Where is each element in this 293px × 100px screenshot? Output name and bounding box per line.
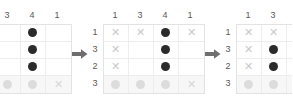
filled-dot-icon	[111, 80, 120, 89]
cross-icon: ✕	[104, 59, 128, 75]
grid-row	[0, 25, 71, 42]
filled-dot-icon	[269, 80, 278, 89]
row-clue-column: 1323	[88, 24, 103, 92]
cell-empty[interactable]	[46, 25, 71, 42]
puzzle-grid: ✕✕✕✕✕✕✕	[236, 24, 293, 94]
cell-filled[interactable]	[154, 42, 179, 59]
cell-empty[interactable]	[179, 42, 204, 59]
cell-empty[interactable]	[46, 42, 71, 59]
column-clue: 4	[153, 7, 178, 24]
cell-crossed[interactable]: ✕	[129, 25, 154, 42]
cell-crossed[interactable]: ✕	[104, 25, 129, 42]
cell-filled[interactable]	[21, 25, 46, 42]
cell-empty[interactable]	[46, 59, 71, 76]
arrow-right-icon	[72, 48, 88, 60]
row-clue: 1	[221, 24, 236, 41]
cross-icon: ✕	[104, 25, 128, 41]
column-clue: 4	[20, 7, 45, 24]
cell-crossed[interactable]: ✕	[262, 25, 287, 42]
grid-row: ✕	[237, 42, 293, 59]
filled-dot-icon	[269, 62, 278, 71]
cell-filled[interactable]	[154, 25, 179, 42]
filled-dot-icon	[28, 80, 37, 89]
cell-filled[interactable]	[21, 59, 46, 76]
cell-empty[interactable]	[129, 59, 154, 76]
grid-row: ✕✕✕	[237, 25, 293, 42]
cell-filled-faint[interactable]	[154, 76, 179, 93]
puzzle-panel-3: 13411323✕✕✕✕✕✕✕	[221, 7, 293, 94]
grid-row: ✕✕✕	[104, 25, 204, 42]
nonogram-steps-diagram: 13411323✕13411323✕✕✕✕✕✕13411323✕✕✕✕✕✕✕	[0, 0, 292, 100]
column-clue: 1	[236, 7, 261, 24]
cell-filled-faint[interactable]	[21, 76, 46, 93]
grid-row: ✕	[104, 59, 204, 76]
filled-dot-icon	[28, 62, 37, 71]
cell-filled[interactable]	[21, 42, 46, 59]
cell-crossed[interactable]: ✕	[104, 59, 129, 76]
cell-crossed[interactable]: ✕	[46, 76, 71, 93]
cell-crossed[interactable]: ✕	[237, 59, 262, 76]
column-clue: 3	[128, 7, 153, 24]
column-clue-row: 1341	[236, 7, 293, 24]
cell-crossed[interactable]: ✕	[104, 42, 129, 59]
grid-row: ✕✕	[237, 59, 293, 76]
cell-crossed[interactable]: ✕	[179, 25, 204, 42]
grid-row	[0, 42, 71, 59]
cell-filled-medium[interactable]	[287, 25, 293, 42]
row-clue: 2	[88, 58, 103, 75]
grid-row: ✕	[0, 76, 71, 93]
cell-filled-faint[interactable]	[104, 76, 129, 93]
cell-filled-faint[interactable]	[237, 76, 262, 93]
cell-filled-medium[interactable]	[287, 42, 293, 59]
panel-body: 1323✕	[0, 24, 72, 94]
grid-row: ✕	[104, 42, 204, 59]
cross-icon: ✕	[262, 25, 286, 41]
cell-filled-medium[interactable]	[287, 59, 293, 76]
filled-dot-icon	[28, 45, 37, 54]
filled-dot-icon	[3, 80, 12, 89]
cross-icon: ✕	[237, 25, 261, 41]
cell-crossed[interactable]: ✕	[179, 76, 204, 93]
cross-icon: ✕	[46, 76, 71, 93]
cell-filled[interactable]	[262, 42, 287, 59]
row-clue: 2	[221, 58, 236, 75]
row-clue: 3	[88, 41, 103, 58]
row-clue-column: 1323	[221, 24, 236, 92]
column-clue-row: 1341	[0, 7, 70, 24]
cell-crossed[interactable]: ✕	[237, 42, 262, 59]
cell-filled-faint[interactable]	[0, 76, 21, 93]
cell-empty[interactable]	[0, 42, 21, 59]
cell-filled-faint[interactable]	[287, 76, 293, 93]
grid-row: ✕	[237, 76, 293, 93]
row-clue: 3	[88, 75, 103, 92]
cross-icon: ✕	[179, 76, 204, 93]
cell-empty[interactable]	[179, 59, 204, 76]
panel-body: 1323✕✕✕✕✕✕	[88, 24, 205, 94]
cell-filled-faint[interactable]	[129, 76, 154, 93]
column-clue: 1	[178, 7, 203, 24]
cell-filled-faint[interactable]	[262, 76, 287, 93]
filled-dot-icon	[244, 80, 253, 89]
cell-crossed[interactable]: ✕	[237, 25, 262, 42]
filled-dot-icon	[161, 45, 170, 54]
cell-empty[interactable]	[129, 42, 154, 59]
cell-empty[interactable]	[0, 59, 21, 76]
row-clue: 1	[88, 24, 103, 41]
cell-filled[interactable]	[262, 59, 287, 76]
puzzle-grid: ✕	[0, 24, 72, 94]
puzzle-panel-1: 13411323✕	[0, 7, 72, 94]
puzzle-grid: ✕✕✕✕✕✕	[103, 24, 205, 94]
cross-icon: ✕	[104, 42, 128, 58]
cross-icon: ✕	[237, 59, 261, 75]
column-clue: 1	[103, 7, 128, 24]
cell-filled[interactable]	[154, 59, 179, 76]
arrow-right-icon	[205, 48, 221, 60]
column-clue: 1	[45, 7, 70, 24]
cell-empty[interactable]	[0, 25, 21, 42]
column-clue: 3	[0, 7, 20, 24]
panel-body: 1323✕✕✕✕✕✕✕	[221, 24, 293, 94]
column-clue: 4	[286, 7, 293, 24]
cross-icon: ✕	[129, 25, 153, 41]
column-clue: 3	[261, 7, 286, 24]
filled-dot-icon	[28, 28, 37, 37]
